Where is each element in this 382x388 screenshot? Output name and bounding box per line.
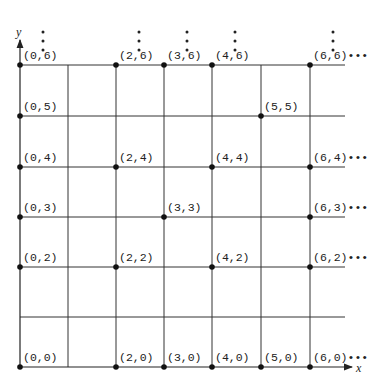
point-label: (5,5): [264, 100, 299, 113]
ellipsis-dot: [234, 31, 237, 34]
lattice-point: [209, 364, 215, 370]
point-label: (0,2): [23, 251, 58, 264]
point-label: (4,4): [215, 151, 250, 164]
ellipsis-dot: [42, 31, 45, 34]
lattice-point: [17, 62, 23, 68]
ellipsis-dot: [138, 40, 141, 43]
point-label: (6,6)•••: [313, 49, 368, 62]
lattice-point: [17, 364, 23, 370]
point-label: (6,2)•••: [313, 251, 368, 264]
lattice-point: [307, 214, 313, 220]
lattice-point: [307, 164, 313, 170]
lattice-point: [161, 364, 167, 370]
lattice-point: [113, 62, 119, 68]
lattice-point: [307, 364, 313, 370]
ellipsis-dot: [138, 31, 141, 34]
lattice-point: [161, 214, 167, 220]
ellipsis-dot: [332, 40, 335, 43]
lattice-point: [17, 113, 23, 119]
lattice-point: [307, 264, 313, 270]
lattice-point: [113, 164, 119, 170]
point-label: (4,2): [215, 251, 250, 264]
ellipsis-dot: [234, 40, 237, 43]
point-label: (3,6): [167, 49, 202, 62]
lattice-point: [113, 264, 119, 270]
lattice-point: [17, 164, 23, 170]
ellipsis-dot: [186, 40, 189, 43]
point-label: (0,6): [23, 49, 58, 62]
lattice-point: [209, 62, 215, 68]
lattice-point: [258, 364, 264, 370]
point-label: (0,0): [23, 351, 58, 364]
point-label: (2,4): [119, 151, 154, 164]
ellipsis-dot: [332, 31, 335, 34]
point-label: (0,3): [23, 201, 58, 214]
lattice-diagram: x y (0,6)(2,6)(3,6)(4,6)(6,6)•••(0,5)(5,…: [0, 0, 382, 388]
point-label: (0,5): [23, 100, 58, 113]
lattice-point: [258, 113, 264, 119]
lattice-point: [17, 264, 23, 270]
point-label: (2,2): [119, 251, 154, 264]
point-label: (6,0)•••: [313, 351, 368, 364]
point-label: (4,6): [215, 49, 250, 62]
y-axis-label: y: [15, 25, 22, 39]
point-label: (3,3): [167, 201, 202, 214]
lattice-point: [113, 364, 119, 370]
point-label: (0,4): [23, 151, 58, 164]
lattice-point: [161, 62, 167, 68]
point-label: (3,0): [167, 351, 202, 364]
point-label: (6,4)•••: [313, 151, 368, 164]
point-label: (2,6): [119, 49, 154, 62]
lattice-point: [209, 264, 215, 270]
point-label: (4,0): [215, 351, 250, 364]
point-label: (5,0): [264, 351, 299, 364]
point-label: (6,3)•••: [313, 201, 368, 214]
point-label: (2,0): [119, 351, 154, 364]
lattice-point: [307, 62, 313, 68]
lattice-points: (0,6)(2,6)(3,6)(4,6)(6,6)•••(0,5)(5,5)(0…: [17, 49, 368, 370]
ellipsis-dot: [42, 40, 45, 43]
lattice-point: [17, 214, 23, 220]
ellipsis-dot: [186, 31, 189, 34]
lattice-point: [209, 164, 215, 170]
